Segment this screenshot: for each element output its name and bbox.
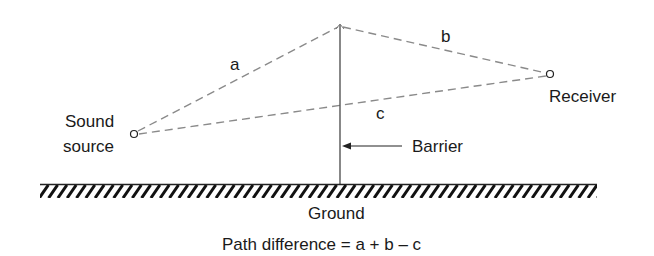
sound-source-label-line2: source — [63, 137, 114, 156]
sound-source-point — [131, 131, 138, 138]
arrowhead-icon — [342, 143, 351, 150]
sound-source-label-line1: Sound — [65, 112, 114, 131]
path-difference-formula: Path difference = a + b – c — [222, 235, 422, 254]
path-a-label: a — [230, 55, 240, 74]
receiver-label: Receiver — [549, 87, 616, 106]
ground-label: Ground — [308, 204, 365, 223]
receiver-point — [547, 71, 554, 78]
path-a-line — [138, 27, 338, 131]
barrier-label: Barrier — [412, 137, 463, 156]
path-c-line — [139, 76, 546, 134]
ground-hatching — [30, 185, 616, 198]
path-b-label: b — [441, 27, 450, 46]
path-c-label: c — [376, 104, 385, 123]
barrier-diagram: a b c Sound source Receiver Barrier Grou… — [0, 0, 654, 256]
